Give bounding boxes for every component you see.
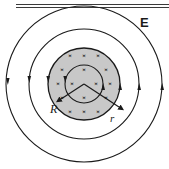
label-radius-R: R: [50, 103, 57, 115]
magnetic-field-cross-icon: ×: [96, 109, 100, 116]
magnetic-field-cross-icon: ×: [108, 81, 112, 88]
outer-right-arrowhead: [160, 83, 164, 90]
magnetic-field-cross-icon: ×: [68, 109, 72, 116]
magnetic-field-cross-icon: ×: [104, 95, 108, 102]
middle-right-arrowhead: [137, 83, 141, 90]
magnetic-field-cross-icon: ×: [82, 95, 86, 102]
magnetic-field-cross-icon: ×: [60, 95, 64, 102]
magnetic-field-cross-icon: ×: [56, 81, 60, 88]
magnetic-field-cross-icon: ×: [82, 67, 86, 74]
label-electric-field: E: [140, 16, 149, 29]
magnetic-field-cross-icon: ×: [68, 53, 72, 60]
middle-left-arrowhead: [28, 76, 32, 83]
magnetic-field-cross-icon: ×: [82, 53, 86, 60]
magnetic-field-cross-icon: ×: [82, 109, 86, 116]
magnetic-field-cross-icon: ×: [70, 81, 74, 88]
magnetic-field-cross-icon: ×: [104, 67, 108, 74]
physics-field-diagram: ×××××××××××××××× E R r: [0, 0, 169, 169]
magnetic-field-cross-icon: ×: [94, 81, 98, 88]
magnetic-field-cross-icon: ×: [60, 67, 64, 74]
label-radius-r: r: [110, 113, 114, 124]
magnetic-field-cross-icon: ×: [96, 53, 100, 60]
